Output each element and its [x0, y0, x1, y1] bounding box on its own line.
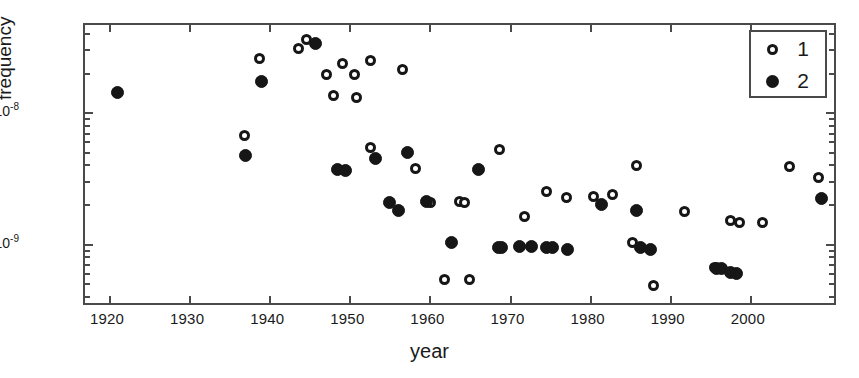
data-point-series2: [111, 86, 124, 99]
data-point-series2: [546, 241, 559, 254]
x-tick-label-1950: 1950: [330, 310, 364, 327]
data-point-series2: [339, 164, 352, 177]
x-tick-label-1940: 1940: [250, 310, 284, 327]
data-point-series1: [757, 217, 768, 228]
x-axis-title: year: [0, 340, 859, 363]
x-tick-label-1960: 1960: [410, 310, 444, 327]
y-tick-label-10-9: 10-9: [0, 233, 19, 251]
data-point-series1: [349, 69, 360, 80]
data-point-series2: [420, 195, 433, 208]
x-tick-label-1970: 1970: [490, 310, 524, 327]
data-point-series2: [525, 240, 538, 253]
x-tick-label-2000: 2000: [731, 310, 765, 327]
data-point-series1: [519, 211, 530, 222]
data-point-series2: [369, 152, 382, 165]
x-tick-label-1980: 1980: [571, 310, 605, 327]
data-point-series1: [561, 192, 572, 203]
data-points-layer: [85, 25, 834, 303]
data-point-series1: [459, 197, 470, 208]
data-point-series1: [631, 160, 642, 171]
data-point-series1: [351, 92, 362, 103]
plot-area: [83, 23, 836, 305]
data-point-series2: [239, 149, 252, 162]
data-point-series2: [401, 146, 414, 159]
data-point-series1: [239, 130, 250, 141]
data-point-series2: [309, 37, 322, 50]
data-point-series1: [337, 58, 348, 69]
data-point-series2: [815, 192, 828, 205]
legend-entry-1-label: 1: [787, 37, 825, 61]
data-point-series1: [254, 53, 265, 64]
y-axis-title: frequency: [0, 0, 16, 100]
data-point-series1: [410, 163, 421, 174]
data-point-series2: [472, 163, 485, 176]
data-point-series1: [813, 172, 824, 183]
data-point-series2: [255, 75, 268, 88]
data-point-series1: [321, 69, 332, 80]
data-point-series1: [397, 64, 408, 75]
data-point-series2: [630, 204, 643, 217]
data-point-series1: [784, 161, 795, 172]
data-point-series1: [464, 274, 475, 285]
x-tick-label-1930: 1930: [170, 310, 204, 327]
data-point-series2: [644, 243, 657, 256]
legend-entry-2-label: 2: [787, 69, 825, 93]
data-point-series2: [595, 198, 608, 211]
data-point-series1: [541, 186, 552, 197]
data-point-series1: [328, 90, 339, 101]
data-point-series1: [679, 206, 690, 217]
x-tick-label-1990: 1990: [651, 310, 685, 327]
y-tick-label-10-8: 10-8: [0, 101, 19, 119]
scatter-chart-figure: frequency 10-810-9 192019301940195019601…: [0, 0, 859, 378]
data-point-series2: [730, 267, 743, 280]
data-point-series2: [495, 241, 508, 254]
legend-entry-2[interactable]: 2: [751, 64, 825, 98]
legend-box: 1 2: [749, 30, 827, 98]
data-point-series1: [734, 217, 745, 228]
data-point-series1: [607, 189, 618, 200]
data-point-series2: [392, 204, 405, 217]
x-tick-label-1920: 1920: [90, 310, 124, 327]
data-point-series1: [293, 43, 304, 54]
open-circle-icon: [757, 44, 787, 55]
data-point-series2: [445, 236, 458, 249]
data-point-series1: [494, 144, 505, 155]
filled-circle-icon: [757, 75, 787, 88]
data-point-series1: [648, 280, 659, 291]
legend-entry-1[interactable]: 1: [751, 32, 825, 66]
data-point-series2: [561, 243, 574, 256]
data-point-series1: [439, 274, 450, 285]
data-point-series1: [365, 55, 376, 66]
